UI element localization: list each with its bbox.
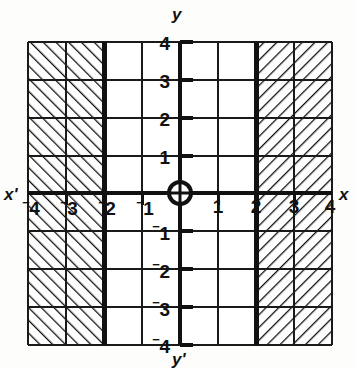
plot-canvas bbox=[0, 0, 357, 368]
x-tick-label--3: −3 bbox=[60, 197, 78, 218]
x-tick-label-1: 1 bbox=[213, 197, 224, 216]
y-tick-label--4: −4 bbox=[136, 334, 170, 355]
y-tick-label--1: −1 bbox=[136, 221, 170, 242]
x-tick-label-2: 2 bbox=[251, 197, 262, 216]
axis-label-x-positive: x bbox=[339, 186, 348, 203]
x-tick-label-4: 4 bbox=[325, 197, 336, 216]
axis-label-y-positive: y bbox=[172, 6, 181, 23]
x-tick-label--4: −4 bbox=[22, 197, 40, 218]
y-tick-label-3: 3 bbox=[140, 72, 170, 91]
axis-label-y-negative: y' bbox=[172, 351, 186, 368]
origin-marker-icon bbox=[169, 182, 191, 204]
y-tick-label-1: 1 bbox=[140, 148, 170, 167]
y-tick-label-4: 4 bbox=[140, 34, 170, 53]
y-tick-label-2: 2 bbox=[140, 110, 170, 129]
x-tick-label--1: −1 bbox=[136, 197, 154, 218]
y-tick-label--2: −2 bbox=[136, 259, 170, 280]
y-tick-label--3: −3 bbox=[136, 297, 170, 318]
x-tick-label-3: 3 bbox=[289, 197, 300, 216]
axis-label-x-negative: x' bbox=[4, 186, 18, 203]
coordinate-graph-figure: x' x y y' −4 −3 −2 −1 1 2 3 4 4 3 2 1 −1… bbox=[0, 0, 357, 368]
x-tick-label--2: −2 bbox=[98, 197, 116, 218]
